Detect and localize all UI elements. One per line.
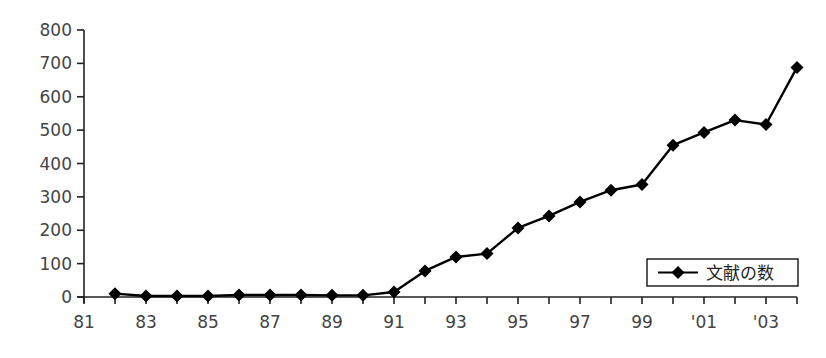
x-tick-label: 85 [197,312,219,332]
data-point-marker [698,126,711,139]
data-point-marker [574,195,587,208]
x-tick-label: 99 [631,312,653,332]
data-point-marker [543,209,556,222]
data-point-marker [419,264,432,277]
y-tick-label: 400 [40,154,72,174]
data-point-marker [202,289,215,302]
y-tick-label: 200 [40,220,72,240]
x-tick-label: 95 [507,312,529,332]
data-point-marker [357,289,370,302]
y-axis: 0100200300400500600700800 [40,20,84,307]
x-tick-label: 93 [445,312,467,332]
y-tick-label: 800 [40,20,72,40]
legend: 文献の数 [647,259,798,286]
x-axis: 81838587899193959799'01'03 [73,297,797,332]
data-point-marker [109,287,122,300]
line-chart: 0100200300400500600700800 81838587899193… [0,0,826,358]
data-point-marker [605,184,618,197]
data-point-marker [450,250,463,263]
x-tick-label: 97 [569,312,591,332]
data-point-marker [791,61,804,74]
data-point-marker [140,289,153,302]
data-point-marker [729,114,742,127]
y-tick-label: 600 [40,87,72,107]
y-tick-label: 100 [40,254,72,274]
y-tick-label: 0 [61,287,72,307]
data-point-marker [760,118,773,131]
x-tick-label: 81 [73,312,95,332]
y-tick-label: 700 [40,53,72,73]
x-tick-label: 91 [383,312,405,332]
legend-label: 文献の数 [706,263,774,283]
data-point-marker [264,288,277,301]
data-point-marker [326,289,339,302]
y-tick-label: 300 [40,187,72,207]
x-tick-label: '01 [691,312,717,332]
x-tick-label: 87 [259,312,281,332]
x-tick-label: '03 [753,312,779,332]
x-tick-label: 83 [135,312,157,332]
data-point-marker [171,289,184,302]
x-tick-label: 89 [321,312,343,332]
data-point-marker [233,288,246,301]
data-point-marker [295,288,308,301]
y-tick-label: 500 [40,120,72,140]
